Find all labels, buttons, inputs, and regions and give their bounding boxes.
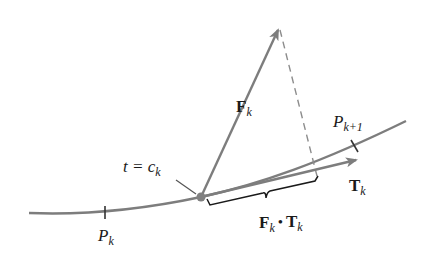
param-label: t = ck	[123, 157, 161, 179]
tangent-label: Tk	[349, 176, 366, 198]
dot-product-label: Fk•Tk	[259, 212, 303, 235]
projection-dashed-line	[280, 30, 317, 176]
tangent-vector-arrow	[201, 160, 356, 197]
curve	[29, 121, 406, 213]
work-projection-diagram: Fk Tk Pk Pk+1 t = ck Fk•Tk	[0, 0, 438, 261]
point-pk1-label: Pk+1	[332, 112, 363, 134]
point-t-ck	[197, 193, 206, 202]
leader-line	[176, 180, 196, 194]
point-pk-label: Pk	[97, 226, 114, 248]
force-label: Fk	[236, 97, 252, 119]
